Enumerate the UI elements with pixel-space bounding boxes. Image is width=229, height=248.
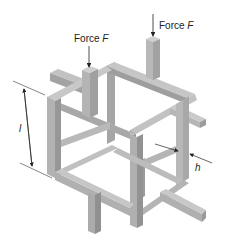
front-center-vertical: [130, 134, 143, 228]
bottom-right-strut: [160, 189, 206, 222]
force-label-left-prefix: Force: [74, 33, 102, 44]
bottom-down-post: [88, 192, 101, 234]
force-label-left: Force F: [74, 34, 108, 44]
force-label-left-symbol: F: [102, 33, 108, 44]
length-label: l: [19, 124, 21, 134]
front-left-vertical: [47, 97, 61, 178]
force-label-right-prefix: Force: [159, 20, 187, 31]
right-vertical: [176, 96, 189, 186]
thickness-label: h: [195, 163, 201, 173]
force-post-right: [146, 36, 160, 80]
lattice-cell-diagram: [0, 0, 229, 248]
force-label-right: Force F: [159, 21, 193, 31]
force-label-right-symbol: F: [187, 20, 193, 31]
force-post-left: [82, 66, 98, 118]
